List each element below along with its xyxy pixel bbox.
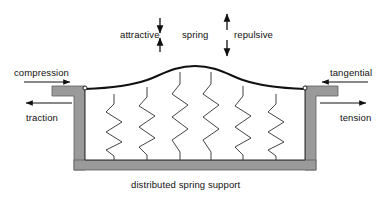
left-wall	[52, 86, 85, 170]
label-compression: compression	[14, 68, 69, 78]
label-attractive: attractive	[120, 30, 160, 40]
label-tension: tension	[340, 113, 371, 123]
base-slab	[74, 160, 316, 170]
spring-support-diagram: attractive spring repulsive compression …	[0, 0, 390, 204]
label-tangential: tangential	[330, 68, 372, 78]
left-pin-joint	[83, 86, 87, 90]
right-pin-joint	[303, 86, 307, 90]
label-spring: spring	[182, 30, 208, 40]
deformed-beam-curve	[85, 66, 305, 89]
caption-distributed-spring-support: distributed spring support	[131, 180, 240, 190]
label-traction: traction	[26, 113, 58, 123]
label-repulsive: repulsive	[234, 30, 273, 40]
right-wall	[305, 86, 338, 170]
